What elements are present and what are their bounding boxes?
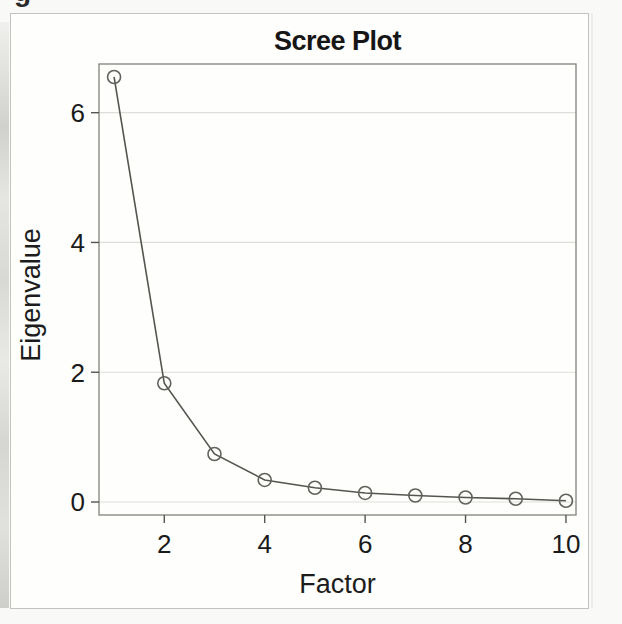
x-tick-label-6: 6: [358, 529, 372, 559]
x-tick-label-4: 4: [257, 529, 271, 559]
y-tick-label-2: 2: [71, 358, 85, 388]
chart-title: Scree Plot: [99, 27, 576, 55]
scree-plot-chart: 0246246810: [0, 0, 622, 624]
x-tick-label-8: 8: [458, 529, 472, 559]
eigenvalue-line: [114, 77, 566, 501]
plot-border: [99, 64, 576, 515]
y-axis-label: Eigenvalue: [17, 145, 45, 445]
x-tick-label-10: 10: [551, 529, 580, 559]
y-tick-label-4: 4: [71, 228, 85, 258]
x-tick-label-2: 2: [157, 529, 171, 559]
scanned-figure-page: g 0246246810 Scree Plot Factor Eigenvalu…: [0, 0, 622, 624]
y-tick-label-0: 0: [71, 487, 85, 517]
x-axis-label: Factor: [99, 570, 576, 598]
y-tick-label-6: 6: [71, 98, 85, 128]
